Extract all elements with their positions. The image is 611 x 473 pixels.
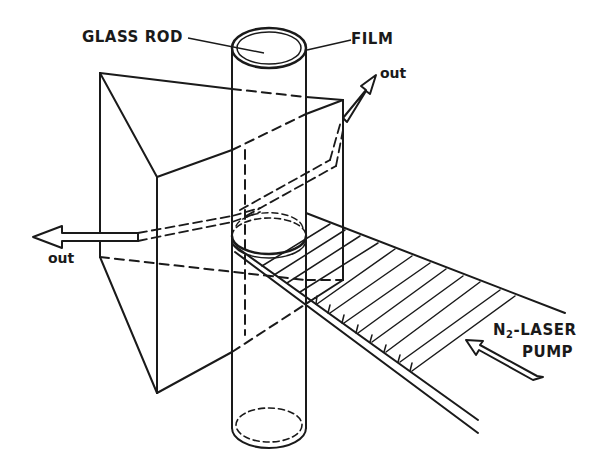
pump-label-subscript: 2 — [506, 329, 513, 340]
output-arrow-left — [33, 226, 138, 248]
pump-label-line2: PUMP — [522, 345, 573, 360]
output-right-label: out — [380, 66, 406, 80]
pump-label-n: N — [493, 321, 506, 339]
optical-setup-drawing — [0, 0, 611, 473]
pump-label-laser: -LASER — [514, 321, 577, 339]
pump-label-line1: N2-LASER — [493, 323, 577, 340]
output-arrow-right — [343, 75, 376, 122]
label-leaders — [188, 38, 351, 53]
diagram-canvas: GLASS ROD FILM out out N2-LASER PUMP — [0, 0, 611, 473]
output-light-paths — [138, 121, 343, 241]
glass-rod-label: GLASS ROD — [82, 30, 183, 45]
glass-rod — [232, 28, 306, 448]
film-label: FILM — [351, 32, 393, 47]
output-left-label: out — [48, 251, 74, 265]
